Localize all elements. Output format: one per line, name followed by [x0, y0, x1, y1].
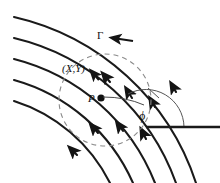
wavefront-arc-1 [14, 17, 196, 183]
flow-arrow-a4 [104, 75, 110, 82]
point-p-marker [97, 94, 104, 101]
flow-direction-arrow-group [71, 75, 176, 155]
wavefront-geometry-figure: Γ (X,Y) P ϕ [0, 0, 220, 183]
gamma-label: Γ [97, 30, 103, 41]
diagram-canvas [0, 0, 220, 183]
wavefront-arc-4 [14, 80, 133, 183]
phi-angle-label: ϕ [139, 110, 145, 122]
point-p-label: P [88, 93, 95, 104]
phi-angle-tick [148, 88, 159, 98]
flow-arrow-a3 [127, 90, 132, 98]
flow-arrow-a3b [142, 131, 146, 139]
flow-arrow-a1 [172, 85, 176, 92]
wavefront-arc-3 [14, 59, 155, 183]
wavefront-arc-5 [14, 101, 110, 183]
gamma-leader-arrow [113, 38, 133, 41]
coordinates-label: (X,Y) [62, 63, 85, 74]
flow-arrow-a5b [71, 149, 77, 155]
wavefront-arc-group [14, 17, 196, 183]
